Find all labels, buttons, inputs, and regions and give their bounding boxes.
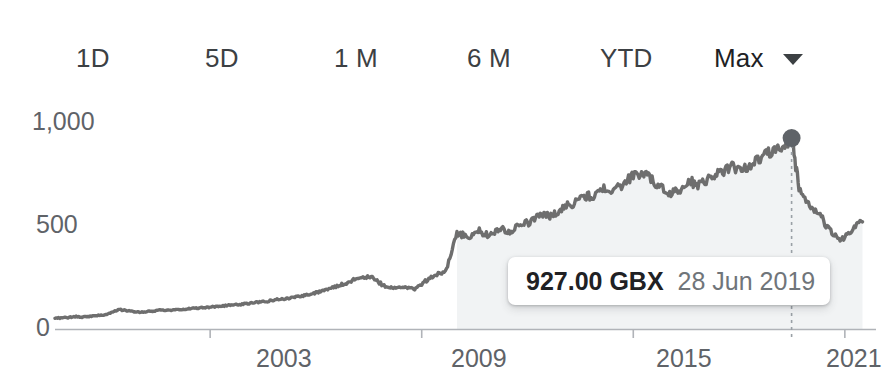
y-axis-tick-label: 1,000 [32,107,95,136]
range-tab-max[interactable]: Max [714,36,764,80]
y-axis-tick-label: 500 [36,210,78,239]
range-tab-label: 5D [205,36,239,80]
price-chart: 1,000 500 0 2003 2009 2015 2021 927.00 G… [0,92,880,389]
selected-point-marker[interactable] [783,129,801,147]
tooltip-date-value: 28 Jun 2019 [678,267,816,296]
range-tab-1d[interactable]: 1D [76,36,110,80]
range-tab-1m[interactable]: 1 M [334,36,378,80]
tooltip-price-value: 927.00 GBX [526,267,664,296]
chart-tooltip: 927.00 GBX 28 Jun 2019 [508,257,830,305]
chevron-down-icon[interactable] [783,54,803,65]
range-selector: 1D 5D 1 M 6 M YTD Max [0,36,880,80]
y-axis-tick-label: 0 [36,313,50,342]
x-axis-ticks [210,329,845,338]
range-tab-label: YTD [600,36,653,80]
chart-canvas [0,92,880,389]
range-tab-label: Max [714,36,764,80]
range-tab-label: 1 M [334,36,378,80]
range-tab-5d[interactable]: 5D [205,36,239,80]
range-tab-label: 6 M [467,36,511,80]
x-axis-tick-label: 2021 [826,344,882,373]
x-axis-tick-label: 2015 [656,344,712,373]
x-axis-tick-label: 2003 [256,344,312,373]
range-tab-ytd[interactable]: YTD [600,36,653,80]
range-tab-6m[interactable]: 6 M [467,36,511,80]
x-axis-tick-label: 2009 [451,344,507,373]
range-tab-label: 1D [76,36,110,80]
